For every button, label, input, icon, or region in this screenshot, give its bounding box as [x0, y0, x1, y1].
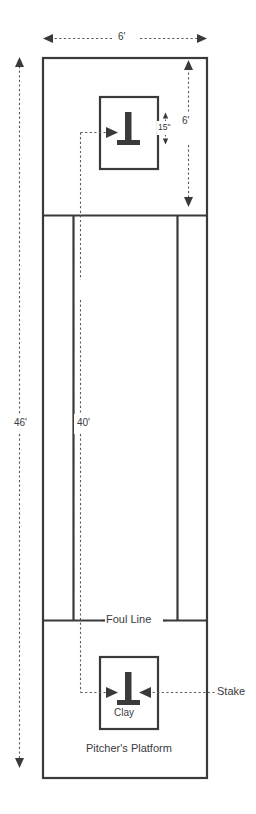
label-stake: Stake	[217, 686, 245, 697]
label-backdrop-court-width	[112, 30, 140, 46]
dimension-label-pit-depth: 6'	[182, 116, 189, 126]
dimension-label-court-width: 6'	[118, 32, 125, 42]
dimension-label-overall-length: 46'	[14, 418, 27, 428]
dimension-label-stake-to-stake: 40'	[77, 418, 90, 428]
label-foul-line: Foul Line	[106, 614, 151, 625]
dimension-label-stake-height: 15"	[158, 123, 170, 132]
label-pitchers-platform: Pitcher's Platform	[86, 743, 172, 754]
dimension-overall-length	[15, 57, 24, 768]
horseshoe-court-diagram: 6' 6' 15" 40' 46' Foul Line Clay Pitcher…	[0, 0, 256, 814]
label-clay: Clay	[114, 708, 134, 718]
